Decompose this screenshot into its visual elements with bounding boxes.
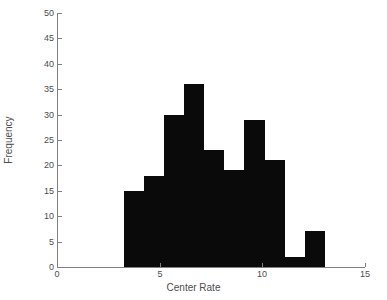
histogram-bar [124,191,144,267]
histogram-bars [57,13,365,267]
x-axis-tick-label: 15 [360,270,370,279]
x-axis-tick [365,263,366,267]
x-axis-title: Center Rate [0,283,387,293]
y-axis-tick [58,115,62,116]
x-axis-tick [160,263,161,267]
y-axis-tick [58,191,62,192]
y-axis-tick-label: 40 [44,60,54,69]
y-axis-tick [58,165,62,166]
y-axis-tick [58,64,62,65]
y-axis-tick [58,267,62,268]
x-axis-line [57,267,365,268]
y-axis-tick-label: 30 [44,111,54,120]
x-axis-tick [262,263,263,267]
histogram-bar [144,176,164,267]
histogram-bar [204,150,224,267]
y-axis-tick-label: 35 [44,85,54,94]
y-axis-tick [58,38,62,39]
y-axis-tick-label: 20 [44,161,54,170]
histogram-bar [285,257,305,267]
y-axis-tick [58,140,62,141]
y-axis-tick [58,242,62,243]
histogram-bar [265,160,285,267]
histogram-bar [224,170,244,267]
histogram-bar [244,120,264,267]
y-axis-tick-label: 25 [44,136,54,145]
x-axis-tick [57,263,58,267]
y-axis-tick [58,89,62,90]
y-axis-tick [58,216,62,217]
histogram-figure: 05101520253035404550 051015 Center Rate … [0,0,387,300]
x-axis-tick-label: 5 [157,270,162,279]
y-axis-tick-label: 5 [49,238,54,247]
y-axis-tick-label: 45 [44,34,54,43]
y-axis-title: Frequency [2,13,15,267]
x-axis-tick-label: 0 [54,270,59,279]
histogram-bar [164,115,184,267]
y-axis-tick-label: 0 [49,263,54,272]
y-axis-tick-label: 10 [44,212,54,221]
y-axis-tick-label: 15 [44,187,54,196]
y-axis-tick [58,13,62,14]
histogram-bar [184,84,204,267]
y-axis-tick-label: 50 [44,9,54,18]
histogram-bar [305,231,325,267]
x-axis-tick-label: 10 [257,270,267,279]
